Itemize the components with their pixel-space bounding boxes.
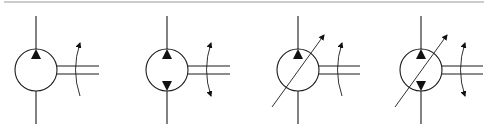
symbol-variable-displacement-pump-bidirectional [395, 16, 483, 124]
flow-triangle-up-icon [31, 49, 41, 59]
rotation-arc-icon [338, 43, 343, 96]
symbol-fixed-displacement-pump-unidirectional [15, 16, 99, 124]
flow-triangle-up-icon [162, 49, 172, 59]
rotation-arc-icon [76, 43, 81, 96]
hydraulic-symbols-diagram [0, 0, 493, 140]
symbol-fixed-displacement-pump-bidirectional [146, 16, 230, 124]
rotation-arc-icon [461, 43, 466, 96]
symbol-variable-displacement-pump-unidirectional [272, 16, 360, 124]
flow-triangle-down-icon [416, 81, 426, 91]
flow-triangle-down-icon [162, 81, 172, 91]
rotation-arc-icon [207, 43, 212, 96]
flow-triangle-up-icon [416, 49, 426, 59]
flow-triangle-up-icon [293, 49, 303, 59]
